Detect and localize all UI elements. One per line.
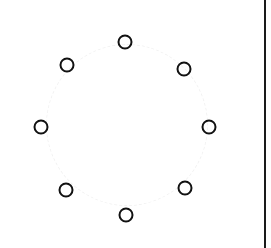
circle-node-top-left xyxy=(60,58,75,73)
circle-node-left xyxy=(34,120,49,135)
diagram-canvas xyxy=(0,0,271,248)
circle-node-right xyxy=(202,120,217,135)
circle-node-top xyxy=(118,35,133,50)
circle-node-top-right xyxy=(177,62,192,77)
circle-node-bottom-right xyxy=(178,181,193,196)
circle-node-bottom-left xyxy=(59,183,74,198)
circle-node-bottom xyxy=(119,208,134,223)
right-border-line xyxy=(264,0,266,248)
